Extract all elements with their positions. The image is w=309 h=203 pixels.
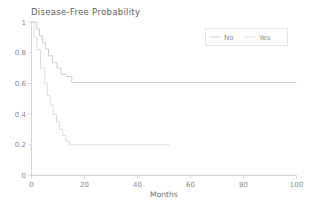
chart-figure: Disease-Free Probability 0 0.2 0.4 0.6 0… [0,0,309,203]
x-tick-label-0: 0 [29,181,33,189]
y-tick-label-1: 0.2 [15,141,26,149]
legend[interactable]: No Yes [206,29,288,46]
x-tick-label-5: 100 [290,181,303,189]
survival-chart: Disease-Free Probability 0 0.2 0.4 0.6 0… [0,0,309,203]
y-tick-label-0: 0 [22,172,26,180]
x-tick-label-4: 80 [239,181,248,189]
legend-label-yes: Yes [258,34,271,42]
y-tick-label-2: 0.4 [15,111,27,119]
x-tick-label-1: 20 [80,181,89,189]
x-tick-label-2: 40 [133,181,142,189]
legend-label-no: No [224,34,234,42]
chart-title: Disease-Free Probability [31,7,140,17]
y-tick-label-4: 0.8 [15,49,26,57]
x-axis-label: Months [150,190,178,199]
x-tick-label-3: 60 [186,181,195,189]
y-tick-label-5: 1 [22,19,26,27]
y-tick-label-3: 0.6 [15,80,27,88]
